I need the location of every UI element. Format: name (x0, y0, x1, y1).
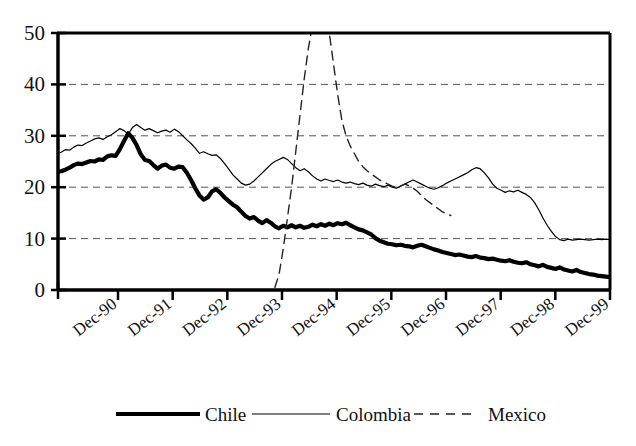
y-tick-label: 30 (24, 124, 45, 148)
y-axis-labels: 01020304050 (24, 21, 45, 302)
chart-legend: ChileColombiaMexico (116, 404, 546, 425)
x-tick-label: Dec-90 (69, 294, 120, 340)
plot-area (57, 33, 610, 290)
x-tick-label: Dec-96 (397, 294, 448, 340)
y-tick-label: 50 (24, 21, 45, 45)
y-tick-label: 0 (35, 278, 46, 302)
y-tick-label: 40 (24, 72, 45, 96)
x-tick-label: Dec-94 (288, 294, 340, 340)
legend-label-chile: Chile (205, 404, 246, 425)
x-tick-label: Dec-93 (233, 294, 284, 340)
y-tick-label: 10 (24, 227, 45, 251)
x-tick-label: Dec-99 (561, 294, 612, 340)
x-tick-label: Dec-95 (343, 294, 394, 340)
legend-label-mexico: Mexico (488, 404, 546, 425)
x-tick-label: Dec-98 (507, 294, 558, 340)
x-tick-label: Dec-91 (124, 294, 175, 340)
chart-svg: 01020304050 Dec-90Dec-91Dec-92Dec-93Dec-… (0, 0, 636, 446)
legend-label-colombia: Colombia (336, 404, 412, 425)
y-tick-label: 20 (24, 175, 45, 199)
x-axis-labels: Dec-90Dec-91Dec-92Dec-93Dec-94Dec-95Dec-… (69, 294, 612, 340)
x-tick-label: Dec-97 (452, 294, 504, 340)
chart-figure: 01020304050 Dec-90Dec-91Dec-92Dec-93Dec-… (0, 0, 636, 446)
x-tick-label: Dec-92 (179, 294, 230, 340)
